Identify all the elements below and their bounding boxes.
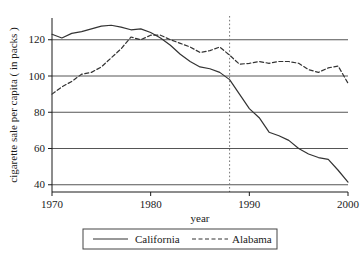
y-tick-label-60: 60 bbox=[34, 142, 46, 154]
y-tick-label-40: 40 bbox=[34, 178, 46, 190]
x-tick-label-1970: 1970 bbox=[41, 198, 64, 210]
x-axis-title: year bbox=[191, 212, 210, 224]
x-tick-label-2000: 2000 bbox=[337, 198, 360, 210]
x-tick-label-1980: 1980 bbox=[140, 198, 163, 210]
legend-label-california: California bbox=[135, 233, 180, 245]
y-tick-label-80: 80 bbox=[34, 106, 46, 118]
legend-label-alabama: Alabama bbox=[232, 233, 272, 245]
y-axis-title: cigarette sale per capita ( in packs ) bbox=[7, 27, 20, 183]
line-chart: 406080100120 1970198019902000 cigarette … bbox=[0, 0, 360, 253]
chart-background bbox=[0, 0, 360, 253]
legend[interactable]: California Alabama bbox=[83, 229, 277, 249]
y-tick-label-120: 120 bbox=[29, 33, 46, 45]
chart-container: 406080100120 1970198019902000 cigarette … bbox=[0, 0, 360, 253]
x-tick-label-1990: 1990 bbox=[238, 198, 261, 210]
y-tick-label-100: 100 bbox=[29, 70, 46, 82]
